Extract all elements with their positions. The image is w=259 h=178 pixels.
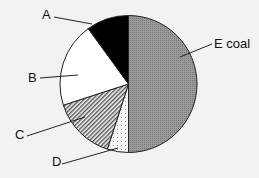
slice-label-e: E coal (214, 36, 250, 51)
slice-label-c: C (15, 127, 24, 142)
pie-slice-e (129, 16, 198, 153)
pie-chart: E coalDCBA (0, 0, 259, 178)
slice-label-d: D (52, 154, 61, 169)
leader-line-a (54, 17, 92, 24)
leader-line-d (62, 148, 118, 164)
slice-label-b: B (28, 70, 37, 85)
slice-label-a: A (42, 7, 51, 22)
